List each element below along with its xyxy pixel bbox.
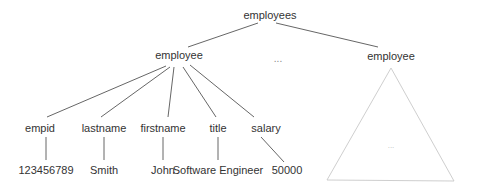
leaf-title-value: Software Engineer: [173, 164, 264, 176]
collapsed-subtree-triangle: [327, 68, 454, 181]
edge-employees-to-employee-right: [276, 23, 378, 47]
edge-employees-to-employee-left: [188, 23, 258, 47]
edge-employee-to-empid: [47, 66, 166, 117]
leaf-firstname-value: John: [151, 164, 175, 176]
node-field-lastname: lastname: [82, 122, 127, 134]
node-employees-root: employees: [243, 9, 297, 21]
edge-employee-to-salary: [190, 65, 254, 117]
node-ellipsis-middle: ...: [274, 53, 282, 64]
node-employee-left: employee: [155, 49, 203, 61]
leaf-salary-value: 50000: [272, 164, 303, 176]
node-field-salary: salary: [251, 122, 281, 134]
node-employee-right: employee: [367, 50, 415, 62]
edge-employee-to-title: [183, 67, 216, 117]
xml-tree-diagram: employees employee ... employee empid la…: [0, 0, 477, 195]
node-field-title: title: [209, 122, 226, 134]
edge-employee-to-lastname: [101, 67, 170, 117]
collapsed-subtree-ellipsis: ...: [388, 141, 395, 150]
edge-salary-to-value: [261, 137, 284, 162]
leaf-empid-value: 123456789: [18, 164, 73, 176]
node-field-empid: empid: [25, 122, 55, 134]
leaf-lastname-value: Smith: [90, 164, 118, 176]
node-field-firstname: firstname: [140, 122, 185, 134]
edge-employee-to-firstname: [168, 67, 174, 117]
